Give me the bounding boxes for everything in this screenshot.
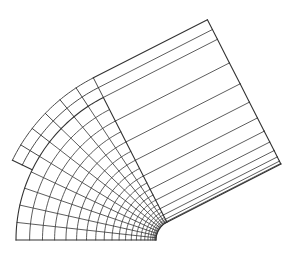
leg-longitudinal-line [143, 118, 257, 176]
leg-longitudinal-line [126, 84, 240, 142]
mesh-radial-line [40, 156, 159, 229]
leg-longitudinal-line [98, 30, 212, 88]
mesh-radial-line [103, 97, 167, 222]
leg-longitudinal-line [167, 164, 281, 222]
notch-radial-line [60, 100, 74, 117]
notch-edge [12, 160, 32, 170]
leg-end-cap [274, 151, 277, 157]
notch-radial-line [32, 128, 49, 141]
leg-end-cap [212, 30, 217, 40]
straight-leg-region [93, 20, 281, 222]
mesh-radial-line [88, 106, 165, 223]
leg-end-cap [217, 39, 229, 63]
elbow-mesh [0, 0, 282, 256]
leg-end-cap [207, 20, 212, 30]
mesh-diagram [0, 0, 282, 256]
leg-end-cap [270, 142, 274, 151]
leg-end-cap [240, 84, 249, 102]
leg-longitudinal-line [163, 157, 277, 215]
leg-longitudinal-line [93, 20, 207, 78]
leg-end-cap [249, 102, 257, 118]
leg-longitudinal-line [135, 102, 249, 160]
leg-longitudinal-line [115, 63, 229, 121]
leg-end-cap [264, 131, 270, 142]
notch-radial-line [21, 145, 40, 156]
leg-longitudinal-line [156, 142, 270, 200]
notch-radial-line [76, 88, 88, 106]
leg-end-cap [257, 118, 264, 131]
leg-end-cap [229, 63, 240, 84]
leg-longitudinal-line [103, 39, 217, 97]
bend-region [16, 97, 167, 240]
mesh-radial-line [31, 172, 158, 232]
mesh-radial-line [61, 129, 162, 226]
leg-longitudinal-line [160, 151, 274, 209]
leg-longitudinal-line [165, 161, 279, 219]
leg-end-cap [277, 157, 279, 161]
